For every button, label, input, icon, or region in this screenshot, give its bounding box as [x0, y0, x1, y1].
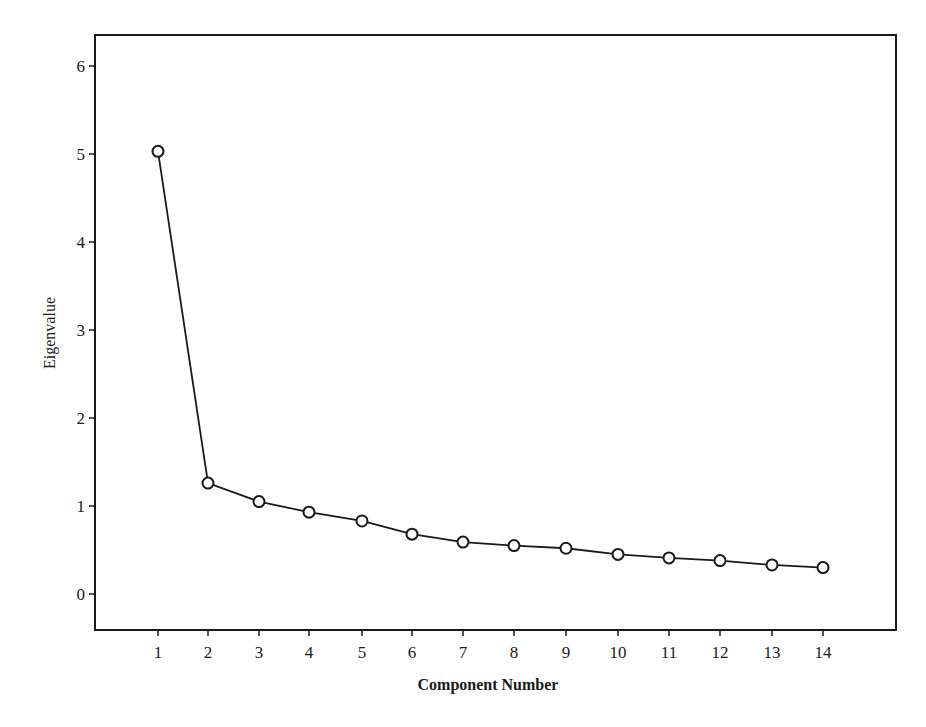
data-point-marker — [715, 555, 726, 566]
data-series — [153, 146, 829, 573]
y-tick-label: 1 — [77, 497, 86, 516]
data-point-marker — [304, 507, 315, 518]
y-tick-label: 6 — [77, 57, 86, 76]
data-point-marker — [254, 496, 265, 507]
data-point-marker — [153, 146, 164, 157]
data-point-marker — [509, 540, 520, 551]
x-tick-label: 8 — [510, 643, 519, 662]
x-tick-label: 14 — [815, 643, 833, 662]
y-tick-label: 0 — [77, 585, 86, 604]
x-tick-label: 4 — [305, 643, 314, 662]
y-tick-label: 2 — [77, 409, 86, 428]
x-tick-label: 2 — [204, 643, 213, 662]
y-tick-label: 4 — [77, 233, 86, 252]
plot-frame — [95, 35, 896, 630]
x-tick-label: 9 — [562, 643, 571, 662]
x-tick-label: 1 — [154, 643, 163, 662]
x-axis: 1234567891011121314 — [154, 630, 832, 662]
data-point-marker — [664, 552, 675, 563]
data-point-marker — [613, 549, 624, 560]
x-tick-label: 3 — [255, 643, 264, 662]
y-axis: 0123456 — [77, 57, 96, 604]
x-tick-label: 10 — [610, 643, 627, 662]
x-tick-label: 13 — [764, 643, 781, 662]
data-point-marker — [458, 537, 469, 548]
x-tick-label: 7 — [459, 643, 468, 662]
x-tick-label: 6 — [408, 643, 417, 662]
scree-plot: 0123456 1234567891011121314 Component Nu… — [0, 0, 926, 727]
data-point-marker — [203, 478, 214, 489]
y-axis-title: Eigenvalue — [41, 297, 59, 369]
x-tick-label: 11 — [661, 643, 677, 662]
data-point-marker — [818, 562, 829, 573]
data-point-marker — [407, 529, 418, 540]
data-point-marker — [561, 543, 572, 554]
data-point-marker — [357, 515, 368, 526]
y-tick-label: 5 — [77, 145, 86, 164]
x-tick-label: 5 — [358, 643, 367, 662]
x-tick-label: 12 — [712, 643, 729, 662]
data-point-marker — [767, 559, 778, 570]
y-tick-label: 3 — [77, 321, 86, 340]
x-axis-title: Component Number — [418, 676, 559, 694]
